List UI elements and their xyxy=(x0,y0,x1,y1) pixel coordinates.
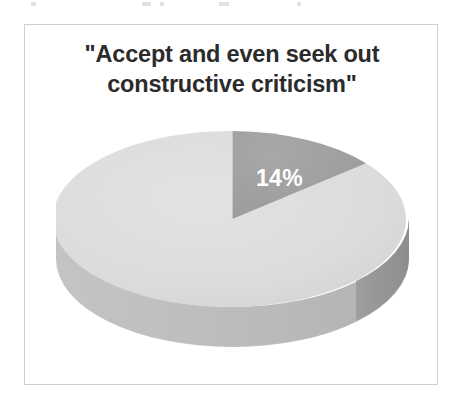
scan-artifact-strip xyxy=(0,0,462,9)
chart-title: "Accept and even seek out constructive c… xyxy=(25,39,439,99)
figure-frame: "Accept and even seek out constructive c… xyxy=(24,24,438,385)
pie-chart-svg xyxy=(56,127,409,355)
pie-chart: 14% xyxy=(56,127,409,355)
pie-slice-data-label: 14% xyxy=(256,165,303,192)
